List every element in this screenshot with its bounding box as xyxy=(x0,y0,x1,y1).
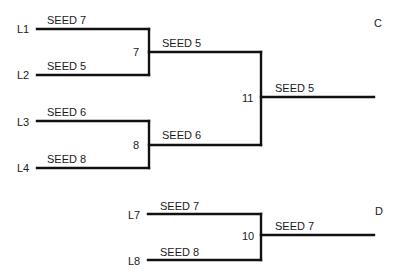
game-number-10: 10 xyxy=(242,230,254,242)
winner-game-7: SEED 5 xyxy=(162,37,201,49)
game-number-11: 11 xyxy=(242,92,253,104)
team-l1: SEED 7 xyxy=(47,14,86,26)
team-l8: SEED 8 xyxy=(160,246,199,258)
line-label-l8: L8 xyxy=(128,255,140,267)
bracket-label-c: C xyxy=(374,17,382,29)
team-l3: SEED 6 xyxy=(47,106,86,118)
bracket-lines xyxy=(0,0,405,278)
team-l7: SEED 7 xyxy=(160,200,199,212)
bracket-label-d: D xyxy=(375,205,383,217)
game-number-8: 8 xyxy=(133,139,139,151)
line-label-l2: L2 xyxy=(17,69,29,81)
winner-game-10: SEED 7 xyxy=(275,220,314,232)
line-label-l1: L1 xyxy=(17,23,29,35)
team-l2: SEED 5 xyxy=(47,60,86,72)
winner-game-11: SEED 5 xyxy=(275,82,314,94)
line-label-l3: L3 xyxy=(17,116,29,128)
team-l4: SEED 8 xyxy=(47,153,86,165)
line-label-l4: L4 xyxy=(17,162,29,174)
winner-game-8: SEED 6 xyxy=(162,129,201,141)
game-number-7: 7 xyxy=(133,46,139,58)
line-label-l7: L7 xyxy=(128,209,140,221)
bracket-diagram: L1 L2 L3 L4 L7 L8 SEED 7 SEED 5 SEED 6 S… xyxy=(0,0,405,278)
